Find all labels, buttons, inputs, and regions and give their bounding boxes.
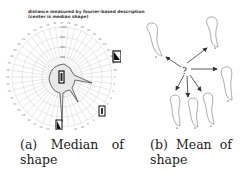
svg-text:5: 5 xyxy=(107,103,109,106)
svg-text:43: 43 xyxy=(98,38,102,41)
mean-shape-diagram: ? sss sss xyxy=(121,0,242,130)
svg-text:28: 28 xyxy=(10,55,14,58)
svg-text:44: 44 xyxy=(103,43,107,46)
svg-text:20: 20 xyxy=(17,109,21,112)
svg-text:2: 2 xyxy=(114,83,116,86)
subfigure-a-median-polar-chart: distance measured by fourier-based descr… xyxy=(0,0,121,130)
shape-outline-3 xyxy=(221,67,232,100)
svg-text:4: 4 xyxy=(110,97,112,100)
svg-text:19: 19 xyxy=(22,114,26,117)
svg-text:41: 41 xyxy=(87,29,91,32)
svg-text:27: 27 xyxy=(8,62,12,65)
thumbnail-lower-right xyxy=(99,106,105,116)
svg-text:3: 3 xyxy=(112,90,114,93)
svg-text:39: 39 xyxy=(74,24,78,27)
svg-text:31: 31 xyxy=(22,38,26,41)
caption-a-word: of xyxy=(112,137,124,152)
svg-text:36: 36 xyxy=(53,22,57,25)
svg-text:30: 30 xyxy=(17,43,21,46)
caption-b-word: Mean xyxy=(176,137,212,152)
shape-outline-4 xyxy=(170,95,180,126)
svg-text:1: 1 xyxy=(114,76,116,79)
caption-a: (a) Median of shape xyxy=(20,137,124,167)
svg-text:45: 45 xyxy=(107,49,111,52)
svg-text:32: 32 xyxy=(27,33,31,36)
svg-text:10: 10 xyxy=(81,126,85,129)
shape-outline-6 xyxy=(203,93,214,124)
shape-outline-1 xyxy=(147,23,162,56)
svg-text:25: 25 xyxy=(6,76,10,79)
subfigure-b-mean-diagram: ? sss sss xyxy=(121,0,242,130)
svg-text:8: 8 xyxy=(93,119,95,122)
svg-text:s: s xyxy=(176,126,178,130)
svg-text:s: s xyxy=(227,99,229,103)
center-question-mark: ? xyxy=(182,66,187,76)
svg-text:s: s xyxy=(210,124,212,128)
svg-text:40: 40 xyxy=(81,26,85,29)
caption-b-label: (b) xyxy=(150,137,168,152)
caption-a-word: Median xyxy=(51,137,99,152)
svg-text:21: 21 xyxy=(13,103,17,106)
svg-text:34: 34 xyxy=(39,26,43,29)
svg-text:17: 17 xyxy=(33,123,37,126)
thumbnail-bottom xyxy=(56,120,62,130)
caption-b: (b) Mean of shape xyxy=(150,137,232,167)
svg-text:400: 400 xyxy=(60,56,65,59)
svg-text:9: 9 xyxy=(87,123,89,126)
svg-text:35: 35 xyxy=(46,24,50,27)
polar-chart: 1234567891011121314151617181920212223242… xyxy=(0,0,121,130)
svg-text:15: 15 xyxy=(46,128,50,130)
svg-text:37: 37 xyxy=(60,22,64,25)
svg-text:s: s xyxy=(155,55,157,59)
svg-text:48: 48 xyxy=(114,69,118,72)
svg-text:29: 29 xyxy=(13,49,17,52)
svg-text:22: 22 xyxy=(10,97,14,100)
svg-text:42: 42 xyxy=(93,33,97,36)
caption-b-line2: shape xyxy=(150,152,232,167)
thumbnail-upper-right xyxy=(113,51,121,62)
shape-outline-2 xyxy=(207,17,218,47)
arrows xyxy=(166,48,217,97)
svg-text:s: s xyxy=(194,126,196,130)
svg-text:1000: 1000 xyxy=(60,26,67,29)
svg-text:16: 16 xyxy=(39,126,43,129)
svg-text:800: 800 xyxy=(60,36,65,39)
caption-a-line2: shape xyxy=(20,152,124,167)
svg-text:11: 11 xyxy=(74,128,78,130)
svg-text:33: 33 xyxy=(33,29,37,32)
svg-text:600: 600 xyxy=(60,46,65,49)
svg-text:24: 24 xyxy=(6,83,10,86)
caption-b-word: of xyxy=(220,137,232,152)
shape-outline-5 xyxy=(188,98,198,127)
caption-a-label: (a) xyxy=(20,137,37,152)
svg-text:38: 38 xyxy=(67,22,71,25)
svg-text:18: 18 xyxy=(27,119,31,122)
svg-text:s: s xyxy=(214,46,216,50)
svg-text:26: 26 xyxy=(6,69,10,72)
svg-text:23: 23 xyxy=(8,90,12,93)
